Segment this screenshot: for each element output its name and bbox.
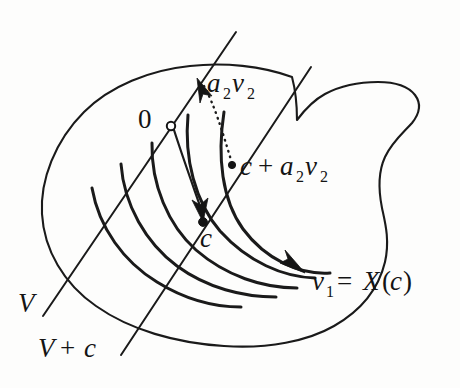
label-sum-c: c xyxy=(240,151,252,181)
label-v1-X: X xyxy=(362,266,381,296)
v1-arrowhead xyxy=(280,250,305,273)
label-point-c: c xyxy=(200,223,212,253)
origin-marker xyxy=(167,122,175,130)
label-a2v2-a: a xyxy=(207,68,221,98)
label-v1-paren-close: ) xyxy=(403,266,412,296)
label-coset-V: V xyxy=(38,333,58,363)
figure-canvas: 0 a 2 v 2 c + a 2 v 2 c v 1 = X ( c ) xyxy=(0,0,460,388)
math-diagram-svg: 0 a 2 v 2 c + a 2 v 2 c v 1 = X ( c ) xyxy=(0,0,460,388)
label-v1-sub: 1 xyxy=(326,283,334,300)
flow-line-2 xyxy=(121,164,276,297)
label-coset-V-plus-c: V + c xyxy=(38,333,96,363)
label-sum-plus: + xyxy=(258,151,273,181)
c-plus-a2v2-marker xyxy=(228,161,235,168)
label-coset-plus: + xyxy=(60,333,75,363)
label-a2v2-sub-v: 2 xyxy=(247,85,255,102)
label-a2v2-v: v xyxy=(232,68,244,98)
label-v1-v: v xyxy=(312,266,324,296)
flow-line-3 xyxy=(152,143,297,288)
label-sum-a: a xyxy=(280,151,294,181)
label-a2v2-sub-a: 2 xyxy=(223,85,231,102)
label-sum-v-sub: 2 xyxy=(320,168,328,185)
flow-line-4 xyxy=(187,115,315,278)
label-sum-a-sub: 2 xyxy=(296,168,304,185)
label-subspace-V: V xyxy=(18,288,38,318)
label-origin: 0 xyxy=(138,104,152,134)
label-v1-equals: = xyxy=(337,266,352,296)
label-coset-c: c xyxy=(84,333,96,363)
label-sum-v: v xyxy=(305,151,317,181)
label-v1-equals-Xc: v 1 = X ( c ) xyxy=(312,266,412,300)
label-a2v2: a 2 v 2 xyxy=(207,68,255,102)
label-v1-c: c xyxy=(390,266,402,296)
